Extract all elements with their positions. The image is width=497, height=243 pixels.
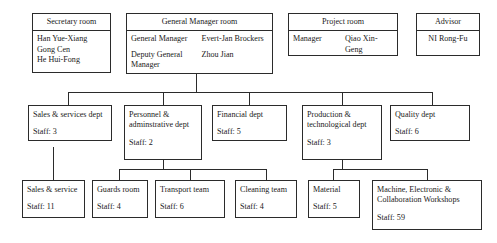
team-staff: Staff: 59: [377, 213, 477, 223]
department-staff: Staff: 5: [217, 127, 282, 137]
secretary-room-names: Han Yue-Xiang Gong Cen He Hui-Fong: [33, 31, 110, 69]
connector-drop-material: [333, 169, 334, 180]
project-room-body: Manager Qiao Xin-Geng: [289, 31, 397, 58]
person-name: Zhou Jian: [202, 50, 269, 61]
person-name: Qiao Xin-Geng: [345, 34, 393, 55]
role-label: Manager: [293, 34, 345, 45]
team-name: Sales & service: [27, 185, 80, 195]
secretary-name: He Hui-Fong: [37, 55, 106, 66]
secretary-name: Han Yue-Xiang: [37, 34, 106, 45]
advisor-names: NI Rong-Fu: [417, 31, 479, 48]
connector-drop-guards: [119, 169, 120, 180]
department-staff: Staff: 3: [307, 138, 377, 148]
advisor-name: NI Rong-Fu: [421, 34, 475, 45]
project-room-header: Project room: [289, 14, 397, 31]
connector-personnel-bus: [119, 169, 266, 170]
connector-production-stem: [342, 160, 343, 169]
team-box-cleaning-team: Cleaning team Staff: 4: [235, 180, 297, 218]
general-manager-room-header: General Manager room: [127, 14, 272, 31]
team-staff: Staff: 4: [97, 202, 143, 212]
team-staff: Staff: 4: [240, 202, 292, 212]
general-manager-room-body: General Manager Evert-Jan Brockers Deput…: [127, 31, 272, 74]
department-box-production-technological: Production & technological dept Staff: 3: [302, 105, 382, 160]
general-manager-room-box: General Manager room General Manager Eve…: [126, 13, 273, 74]
connector-drop-workshops: [427, 169, 428, 180]
team-staff: Staff: 5: [313, 202, 355, 212]
role-label: Deputy General Manager: [131, 50, 202, 71]
connector-drop-quality-dept: [432, 92, 433, 105]
connector-drop-personnel-dept: [163, 92, 164, 105]
team-staff: Staff: 6: [160, 202, 220, 212]
connector-production-bus: [333, 169, 427, 170]
department-box-personnel-administrative: Personnel & adminstrative dept Staff: 2: [124, 105, 202, 160]
connector-drop-production-dept: [342, 92, 343, 105]
secretary-room-header: Secretary room: [33, 14, 110, 31]
table-row: General Manager Evert-Jan Brockers: [131, 34, 268, 45]
table-row: Manager Qiao Xin-Geng: [293, 34, 393, 55]
team-name: Material: [313, 185, 355, 195]
team-box-transport-team: Transport team Staff: 6: [155, 180, 225, 218]
secretary-name: Gong Cen: [37, 45, 106, 56]
department-name: Financial dept: [217, 110, 282, 120]
connector-drop-cleaning: [266, 169, 267, 180]
team-box-material: Material Staff: 5: [308, 180, 360, 218]
connector-drop-transport: [190, 169, 191, 180]
secretary-room-box: Secretary room Han Yue-Xiang Gong Cen He…: [32, 13, 111, 73]
team-name: Transport team: [160, 185, 220, 195]
department-box-financial: Financial dept Staff: 5: [212, 105, 287, 141]
connector-sales-to-sales-service: [53, 147, 54, 180]
connector-drop-sales-dept: [68, 92, 69, 105]
advisor-header: Advisor: [417, 14, 479, 31]
department-staff: Staff: 3: [33, 127, 107, 137]
team-box-guards-room: Guards room Staff: 4: [92, 180, 148, 218]
connector-personnel-stem: [163, 160, 164, 169]
person-name: Evert-Jan Brockers: [202, 34, 269, 45]
connector-departments-bus: [68, 92, 432, 93]
table-row: Deputy General Manager Zhou Jian: [131, 50, 268, 71]
role-label: General Manager: [131, 34, 202, 45]
project-room-box: Project room Manager Qiao Xin-Geng: [288, 13, 398, 56]
department-name: Sales & services dept: [33, 110, 107, 120]
department-box-quality: Quality dept Staff: 6: [390, 105, 470, 141]
team-name: Machine, Electronic & Collaboration Work…: [377, 185, 477, 206]
team-box-machine-electronic-collaboration-workshops: Machine, Electronic & Collaboration Work…: [372, 180, 482, 230]
department-staff: Staff: 2: [129, 138, 197, 148]
department-box-sales-services: Sales & services dept Staff: 3: [28, 105, 112, 141]
department-name: Production & technological dept: [307, 110, 377, 131]
org-chart: Secretary room Han Yue-Xiang Gong Cen He…: [0, 0, 497, 243]
advisor-box: Advisor NI Rong-Fu: [416, 13, 480, 56]
department-staff: Staff: 6: [395, 127, 465, 137]
department-name: Quality dept: [395, 110, 465, 120]
team-name: Cleaning team: [240, 185, 292, 195]
connector-gm-stem: [196, 74, 197, 92]
team-box-sales-service: Sales & service Staff: 11: [22, 180, 85, 218]
connector-drop-financial-dept: [249, 92, 250, 105]
team-staff: Staff: 11: [27, 202, 80, 212]
team-name: Guards room: [97, 185, 143, 195]
department-name: Personnel & adminstrative dept: [129, 110, 197, 131]
